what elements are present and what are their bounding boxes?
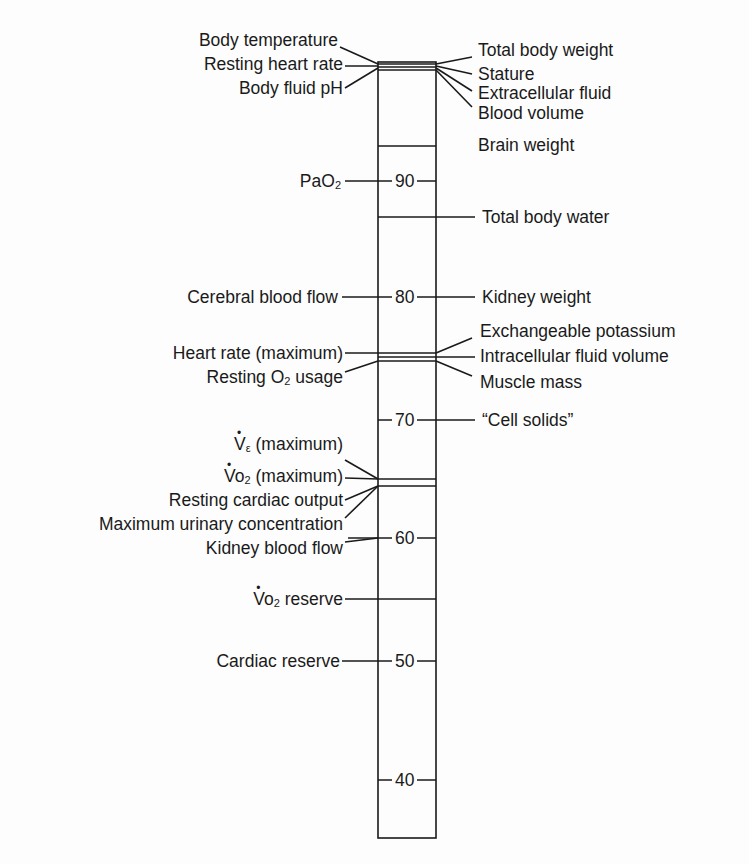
scale-graphic: [0, 0, 749, 864]
label-pao2: PaO2: [300, 171, 341, 195]
label-total-body-weight: Total body weight: [478, 40, 613, 60]
leader-body-fluid-ph: [345, 68, 378, 88]
leader-stature: [436, 66, 472, 74]
label-blood-volume: Blood volume: [478, 103, 584, 123]
leader-resting-cardiac-output: [345, 486, 378, 500]
tick-label-50: 50: [392, 651, 417, 671]
leader-blood-volume: [436, 70, 472, 107]
tick-label-70: 70: [392, 410, 417, 430]
leader-body-temperature: [340, 47, 378, 64]
tick-label-60: 60: [392, 528, 417, 548]
leader-total-body-weight: [436, 57, 472, 64]
label-body-fluid-ph: Body fluid pH: [239, 78, 343, 98]
label-extracellular-fluid: Extracellular fluid: [478, 83, 611, 103]
label-stature: Stature: [478, 64, 534, 84]
label-cell-solids: “Cell solids”: [482, 410, 573, 430]
label-intracellular-fluid-volume: Intracellular fluid volume: [480, 346, 669, 366]
label-vo2-reserve: Vo2 reserve: [253, 589, 343, 613]
label-resting-o2-usage: Resting O2 usage: [207, 367, 343, 391]
label-cardiac-reserve: Cardiac reserve: [216, 651, 340, 671]
label-muscle-mass: Muscle mass: [480, 372, 582, 392]
label-maximum-urinary-concentration: Maximum urinary concentration: [99, 514, 343, 534]
label-brain-weight: Brain weight: [478, 135, 574, 155]
leader-exchangeable-potassium: [436, 338, 472, 353]
tick-label-40: 40: [392, 770, 417, 790]
leader-max-urinary-concentration: [345, 486, 378, 518]
label-total-body-water: Total body water: [482, 207, 609, 227]
label-resting-heart-rate: Resting heart rate: [204, 54, 343, 74]
aging-function-scale-diagram: 90 80 70 60 50 40 Body temperature Resti…: [0, 0, 749, 864]
label-resting-cardiac-output: Resting cardiac output: [169, 490, 343, 510]
label-ve-maximum: Vε (maximum): [234, 434, 343, 458]
leader-vo2-max: [345, 478, 378, 479]
label-kidney-weight: Kidney weight: [482, 287, 591, 307]
tick-label-90: 90: [392, 171, 417, 191]
label-kidney-blood-flow: Kidney blood flow: [206, 538, 343, 558]
tick-label-80: 80: [392, 287, 417, 307]
label-vo2-maximum: Vo2 (maximum): [224, 466, 343, 490]
leader-ve-max: [345, 460, 378, 479]
leader-resting-o2-usage: [345, 361, 378, 372]
label-heart-rate-maximum: Heart rate (maximum): [173, 343, 343, 363]
leader-muscle-mass: [436, 361, 472, 376]
label-exchangeable-potassium: Exchangeable potassium: [480, 321, 676, 341]
label-cerebral-blood-flow: Cerebral blood flow: [187, 287, 338, 307]
label-body-temperature: Body temperature: [199, 30, 338, 50]
